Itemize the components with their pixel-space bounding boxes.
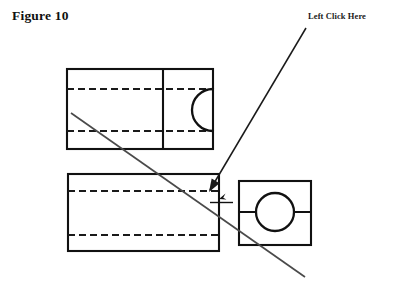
top-view-group: [67, 69, 213, 149]
front-view-outline: [68, 174, 219, 251]
cursor-arrow-icon[interactable]: [219, 194, 227, 200]
technical-drawing-canvas: [0, 0, 393, 288]
click-target-cursor[interactable]: [210, 194, 233, 203]
callout-leader-line: [210, 28, 306, 190]
side-view-bore-circle: [256, 193, 294, 231]
side-view-group: [239, 181, 311, 245]
top-view-arc-profile: [192, 89, 213, 131]
figure-container: Figure 10 Left Click Here: [0, 0, 393, 288]
annotation-group: [209, 28, 306, 192]
front-view-group: [68, 174, 219, 251]
